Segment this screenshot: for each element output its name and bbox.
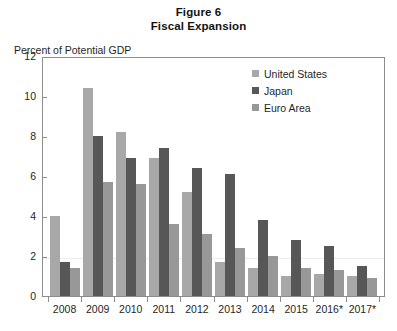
- y-axis-tick-mark: [42, 97, 47, 98]
- x-axis-tick-mark: [180, 297, 181, 302]
- y-axis-tick-label: 6: [30, 170, 36, 183]
- y-axis-tick-label: 10: [24, 90, 36, 103]
- bar: [347, 276, 357, 296]
- bar: [83, 88, 93, 296]
- bar: [334, 270, 344, 296]
- bar: [50, 216, 60, 296]
- x-axis-tick-label: 2015: [280, 303, 313, 315]
- bar: [136, 184, 146, 296]
- bar: [149, 158, 159, 296]
- bar: [159, 148, 169, 296]
- legend-swatch-icon: [252, 104, 259, 111]
- bar: [182, 192, 192, 296]
- x-axis-tick-label: 2017*: [346, 303, 379, 315]
- legend-item-label: Japan: [264, 85, 293, 97]
- legend-item[interactable]: Japan: [252, 83, 327, 98]
- legend-swatch-icon: [252, 70, 259, 77]
- bar-group: [82, 58, 115, 296]
- x-axis-tick-label: 2016*: [313, 303, 346, 315]
- y-axis-tick-mark: [42, 217, 47, 218]
- bar: [248, 268, 258, 296]
- y-axis-tick-mark: [42, 177, 47, 178]
- legend-item[interactable]: Euro Area: [252, 100, 327, 115]
- bar-group: [181, 58, 214, 296]
- bar-group: [345, 58, 378, 296]
- bar: [301, 268, 311, 296]
- x-axis-tick-mark: [313, 297, 314, 302]
- x-axis-tick-label: 2011: [147, 303, 180, 315]
- bar: [268, 256, 278, 296]
- legend-item[interactable]: United States: [252, 66, 327, 81]
- bar: [169, 224, 179, 296]
- bar-group: [214, 58, 247, 296]
- figure-title-block: Figure 6 Fiscal Expansion: [0, 5, 397, 33]
- bar: [235, 248, 245, 296]
- bar-group: [148, 58, 181, 296]
- bar-groups: [43, 58, 384, 296]
- legend-item-label: Euro Area: [264, 102, 311, 114]
- bar: [116, 132, 126, 296]
- bar: [281, 276, 291, 296]
- x-axis-tick-mark: [214, 297, 215, 302]
- x-axis-tick-mark: [81, 297, 82, 302]
- x-axis-tick-label: 2014: [247, 303, 280, 315]
- bar: [70, 268, 80, 296]
- x-axis-tick-label: 2012: [180, 303, 213, 315]
- bar: [225, 174, 235, 296]
- x-axis-tick-label: 2013: [213, 303, 246, 315]
- bar: [367, 278, 377, 296]
- x-axis-tick-label: 2009: [81, 303, 114, 315]
- figure-title-line-1: Figure 6: [0, 5, 397, 19]
- bar: [192, 168, 202, 296]
- y-axis-tick-label: 12: [24, 50, 36, 63]
- plot-inner: [43, 58, 384, 296]
- y-axis-tick-mark: [42, 257, 47, 258]
- bar: [202, 234, 212, 296]
- x-axis-tick-mark: [48, 297, 49, 302]
- y-axis-tick-mark: [42, 137, 47, 138]
- chart-legend: United StatesJapanEuro Area: [252, 66, 327, 117]
- bar: [103, 182, 113, 296]
- bar: [291, 240, 301, 296]
- x-axis-tick-mark: [280, 297, 281, 302]
- x-axis-tick-mark: [379, 297, 380, 302]
- legend-item-label: United States: [264, 68, 327, 80]
- y-axis-tick-label: 2: [30, 250, 36, 263]
- y-axis-tick-label: 4: [30, 210, 36, 223]
- bar: [314, 274, 324, 296]
- plot-area: [42, 57, 385, 297]
- y-axis-tick-label: 8: [30, 130, 36, 143]
- bar: [324, 246, 334, 296]
- x-axis-tick-mark: [147, 297, 148, 302]
- x-axis-tick-label: 2010: [114, 303, 147, 315]
- x-axis-tick-label: 2008: [48, 303, 81, 315]
- figure-title-line-2: Fiscal Expansion: [0, 19, 397, 33]
- y-axis-tick-label: 0: [30, 290, 36, 303]
- x-axis-tick-mark: [114, 297, 115, 302]
- x-axis-tick-mark: [247, 297, 248, 302]
- figure-root: Figure 6 Fiscal Expansion Percent of Pot…: [0, 0, 397, 331]
- bar-group: [115, 58, 148, 296]
- x-axis-labels: 200820092010201120122013201420152016*201…: [42, 303, 385, 315]
- bar: [60, 262, 70, 296]
- x-axis-tick-mark: [346, 297, 347, 302]
- bar: [215, 262, 225, 296]
- bar: [357, 266, 367, 296]
- bar: [93, 136, 103, 296]
- legend-swatch-icon: [252, 87, 259, 94]
- bar-group: [49, 58, 82, 296]
- bar: [126, 158, 136, 296]
- bar: [258, 220, 268, 296]
